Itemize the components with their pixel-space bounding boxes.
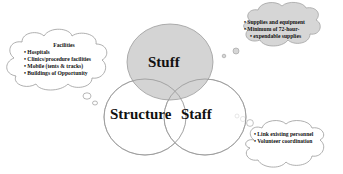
facilities-list: Hospitals Clinics/procedure facilities M… <box>24 49 104 77</box>
list-item: Clinics/procedure facilities <box>24 56 104 63</box>
facilities-title: Facilities <box>24 42 104 49</box>
staff-cloud-text: Link existing personnel Volunteer coordi… <box>254 131 326 145</box>
list-item: Buildings of Opportunity <box>24 70 104 77</box>
list-item: Hospitals <box>24 49 104 56</box>
staff-label: Staff <box>181 106 212 123</box>
stuff-label: Stuff <box>148 54 180 71</box>
list-item: Mobile (tents & tracks) <box>24 63 104 70</box>
facilities-cloud-text: Facilities Hospitals Clinics/procedure f… <box>24 42 104 77</box>
list-item: Link existing personnel <box>254 131 326 138</box>
list-item: expendable supplies <box>244 33 320 40</box>
list-item: Minimum of 72-hour- <box>244 26 320 33</box>
structure-label: Structure <box>110 106 171 123</box>
stuff-cloud-text: Supplies and equipment Minimum of 72-hou… <box>244 19 320 40</box>
list-item: Supplies and equipment <box>244 19 320 26</box>
staff-list: Link existing personnel Volunteer coordi… <box>254 131 326 145</box>
list-item: Volunteer coordination <box>254 138 326 145</box>
stuff-list: Supplies and equipment Minimum of 72-hou… <box>244 19 320 40</box>
